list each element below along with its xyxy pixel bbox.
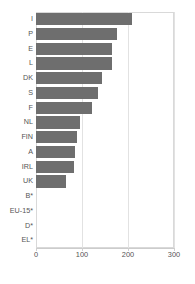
x-tick-mark: [128, 248, 129, 251]
bar-row: B*: [36, 189, 174, 204]
bar-DK: [36, 72, 102, 84]
bar-row: A: [36, 145, 174, 160]
category-label: F: [29, 101, 33, 116]
bar-F: [36, 102, 92, 114]
x-tick-label: 0: [34, 250, 38, 259]
bar-FIN: [36, 131, 77, 143]
category-label: B*: [25, 189, 33, 204]
bar-S: [36, 87, 98, 99]
bar-NL: [36, 116, 80, 128]
bar-row: DK: [36, 71, 174, 86]
bar-row: E: [36, 42, 174, 57]
bar-row: L: [36, 56, 174, 71]
category-label: NL: [24, 115, 33, 130]
category-label: A: [28, 145, 33, 160]
category-label: I: [31, 12, 33, 27]
bar-row: F: [36, 101, 174, 116]
category-label: IRL: [22, 160, 33, 175]
category-label: S: [28, 86, 33, 101]
gridline-300: [174, 12, 175, 248]
category-label: EU-15*: [10, 204, 33, 219]
category-label: UK: [23, 174, 33, 189]
bar-row: FIN: [36, 130, 174, 145]
bar-row: UK: [36, 174, 174, 189]
x-axis-line: [36, 248, 174, 249]
bar-row: NL: [36, 115, 174, 130]
category-label: L: [29, 56, 33, 71]
bar-row: EL*: [36, 233, 174, 248]
bar-row: I: [36, 12, 174, 27]
category-label: E: [28, 42, 33, 57]
x-tick-mark: [174, 248, 175, 251]
x-tick-label: 100: [76, 250, 88, 259]
bar-I: [36, 13, 132, 25]
bar-row: P: [36, 27, 174, 42]
bar-E: [36, 43, 112, 55]
x-tick-mark: [36, 248, 37, 251]
category-label: EL*: [21, 233, 33, 248]
bar-row: EU-15*: [36, 204, 174, 219]
x-tick-label: 300: [168, 250, 180, 259]
bar-row: S: [36, 86, 174, 101]
bar-L: [36, 57, 112, 69]
x-tick-mark: [82, 248, 83, 251]
bar-rows: IPELDKSFNLFINAIRLUKB*EU-15*D*EL*: [36, 12, 174, 248]
bar-IRL: [36, 161, 74, 173]
bar-chart: IPELDKSFNLFINAIRLUKB*EU-15*D*EL* 0100200…: [0, 0, 195, 284]
category-label: DK: [23, 71, 33, 86]
bar-row: IRL: [36, 160, 174, 175]
category-label: D*: [25, 219, 33, 234]
x-tick-label: 200: [122, 250, 134, 259]
category-label: FIN: [21, 130, 33, 145]
bar-A: [36, 146, 75, 158]
bar-P: [36, 28, 117, 40]
bar-row: D*: [36, 219, 174, 234]
category-label: P: [28, 27, 33, 42]
bar-UK: [36, 175, 66, 187]
